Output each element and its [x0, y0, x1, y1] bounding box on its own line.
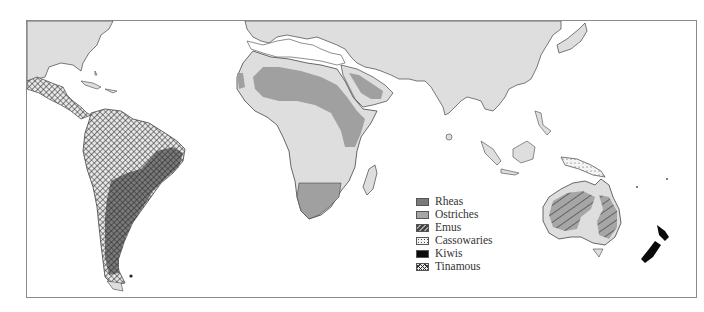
legend-label: Kiwis — [435, 247, 462, 260]
sumatra — [481, 141, 501, 165]
legend-label: Ostriches — [435, 208, 478, 221]
map-frame — [26, 20, 697, 298]
kiwis-swatch-icon — [416, 250, 429, 258]
central-america — [27, 77, 91, 119]
pacific-islands-2 — [666, 178, 668, 180]
new-zealand-north — [657, 225, 669, 241]
world-map — [27, 21, 697, 298]
falkland-islands — [129, 274, 132, 277]
caribbean-islands — [81, 71, 117, 93]
southern-africa-ostrich-range — [297, 183, 341, 219]
madagascar — [363, 165, 377, 195]
north-america — [27, 21, 113, 81]
philippines — [535, 111, 551, 135]
legend: Rheas Ostriches Emus Cassowaries Kiwis T… — [416, 195, 493, 273]
legend-item-rheas: Rheas — [416, 195, 493, 208]
borneo — [513, 141, 535, 163]
rheas-swatch-icon — [416, 198, 429, 206]
cassowaries-swatch-icon — [416, 237, 429, 245]
legend-item-tinamous: Tinamous — [416, 260, 493, 273]
sri-lanka — [446, 134, 452, 140]
new-guinea — [561, 157, 605, 177]
new-zealand-south — [641, 241, 661, 263]
legend-item-cassowaries: Cassowaries — [416, 234, 493, 247]
legend-label: Rheas — [435, 195, 463, 208]
legend-label: Tinamous — [435, 260, 481, 273]
legend-item-ostriches: Ostriches — [416, 208, 493, 221]
tinamous-swatch-icon — [416, 263, 429, 271]
legend-item-kiwis: Kiwis — [416, 247, 493, 260]
tasmania — [593, 249, 603, 257]
japan — [557, 23, 587, 53]
pacific-islands — [636, 186, 638, 188]
java — [501, 169, 519, 175]
ostriches-swatch-icon — [416, 211, 429, 219]
legend-label: Cassowaries — [435, 234, 493, 247]
legend-label: Emus — [435, 221, 461, 234]
emus-swatch-icon — [416, 224, 429, 232]
legend-item-emus: Emus — [416, 221, 493, 234]
